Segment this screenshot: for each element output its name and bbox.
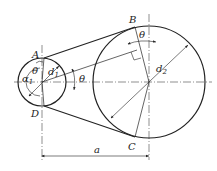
belt-drive-diagram: A D B C θ θ θ α1 d1 d2 a [0, 0, 217, 171]
label-A: A [31, 49, 39, 60]
label-theta-large: θ [139, 29, 145, 40]
label-theta-small: θ [32, 65, 38, 76]
label-B: B [128, 14, 136, 25]
center-lines [14, 14, 212, 160]
diagram-svg: A D B C θ θ θ α1 d1 d2 a [0, 0, 217, 171]
right-angle-marker [131, 52, 141, 60]
label-theta-mid: θ [79, 73, 85, 84]
label-C: C [128, 141, 136, 152]
label-D: D [30, 108, 39, 119]
label-a: a [94, 144, 100, 155]
d2-dimension [111, 45, 188, 118]
theta-arc-large [128, 41, 156, 44]
theta-arc-mid [72, 69, 75, 90]
